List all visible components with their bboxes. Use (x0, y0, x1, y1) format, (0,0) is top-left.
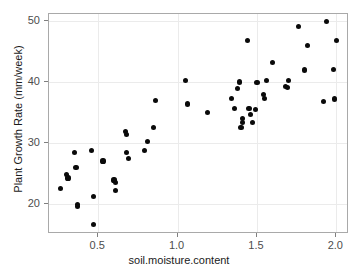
x-tick-label: 1.0 (157, 239, 197, 251)
x-tick-mark (177, 233, 178, 237)
data-point (235, 86, 240, 91)
data-point (91, 194, 96, 199)
y-tick-mark (44, 142, 48, 143)
data-point (89, 148, 94, 153)
data-point (113, 188, 118, 193)
data-point (334, 38, 339, 43)
data-point (245, 38, 250, 43)
x-axis-title: soil.moisture.content (0, 254, 358, 266)
gridline-vertical (257, 14, 258, 232)
data-point (254, 80, 259, 85)
data-point (113, 180, 118, 185)
data-point (262, 96, 267, 101)
x-tick-label: 2.0 (315, 239, 355, 251)
data-point (246, 106, 251, 111)
data-point (124, 150, 129, 155)
x-tick-mark (97, 233, 98, 237)
data-point (183, 78, 188, 83)
data-point (100, 158, 105, 163)
plot-panel (48, 13, 348, 233)
x-tick-label: 1.5 (236, 239, 276, 251)
x-tick-mark (256, 233, 257, 237)
y-tick-mark (44, 81, 48, 82)
y-tick-mark (44, 20, 48, 21)
data-point (142, 148, 147, 153)
x-tick-label: 0.5 (77, 239, 117, 251)
gridline-vertical (336, 14, 337, 232)
x-tick-mark (335, 233, 336, 237)
gridline-horizontal (49, 82, 347, 83)
y-tick-mark (44, 203, 48, 204)
data-point (285, 85, 290, 90)
gridline-vertical (178, 14, 179, 232)
data-point (75, 204, 80, 209)
data-point (151, 125, 156, 130)
data-point (58, 186, 63, 191)
data-point (305, 43, 310, 48)
data-point (229, 96, 234, 101)
data-point (332, 96, 337, 101)
gridline-horizontal (49, 21, 347, 22)
gridline-horizontal (49, 143, 347, 144)
data-point (237, 79, 242, 84)
data-point (270, 60, 275, 65)
data-point (248, 112, 253, 117)
gridline-vertical (98, 14, 99, 232)
gridline-horizontal (49, 204, 347, 205)
data-point (302, 67, 307, 72)
data-point (65, 175, 70, 180)
data-point (91, 222, 96, 227)
data-point (331, 67, 336, 72)
data-point (321, 99, 326, 104)
data-point (72, 150, 77, 155)
data-point (238, 125, 243, 130)
data-point (324, 19, 329, 24)
data-point (253, 107, 258, 112)
scatter-plot-figure: 0.51.01.52.0 20304050 soil.moisture.cont… (0, 0, 358, 274)
y-axis-title: Plant Growth Rate (mm/week) (12, 19, 24, 219)
data-point (73, 165, 78, 170)
data-point (126, 156, 131, 161)
data-point (124, 132, 129, 137)
data-point (296, 24, 301, 29)
data-point (205, 110, 210, 115)
data-point (185, 101, 190, 106)
data-point (153, 98, 158, 103)
data-point (250, 120, 255, 125)
data-point (232, 106, 237, 111)
